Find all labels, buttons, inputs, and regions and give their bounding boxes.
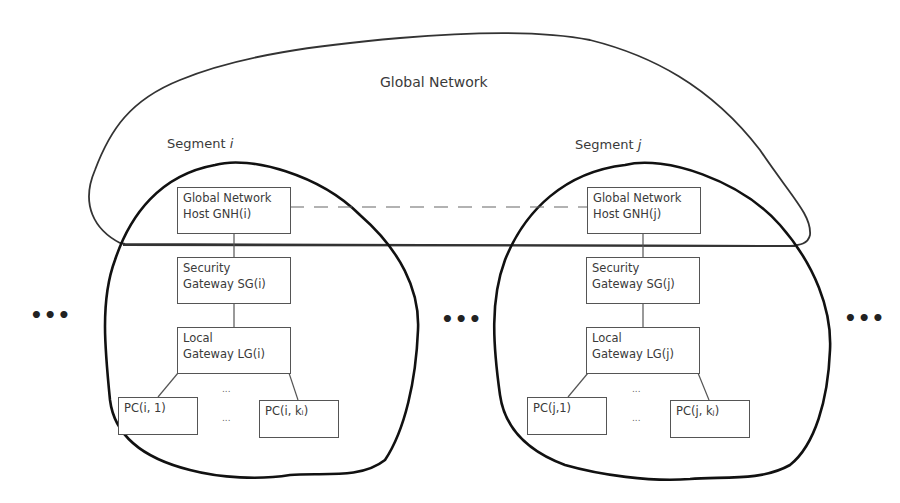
pc-i-ellipsis: ...: [222, 414, 231, 422]
gnh-j-line2: Host GNH(j): [593, 206, 700, 222]
sg-j-line1: Security: [592, 260, 699, 276]
pc-j-ellipsis: ...: [632, 414, 641, 422]
more-segments-right-ellipsis: •••: [844, 313, 885, 323]
pc-i-ellipsis-top: ...: [222, 385, 231, 393]
global-network-label: Global Network: [380, 74, 488, 90]
lg-i-line2: Gateway LG(i): [183, 346, 290, 362]
pc-j-k-node: PC(j, kⱼ): [670, 400, 750, 438]
pc-j-ellipsis-top: ...: [632, 385, 641, 393]
gnh-i-node: Global Network Host GNH(i): [177, 187, 291, 234]
more-segments-left-ellipsis: •••: [30, 310, 71, 320]
connector-lg-pc1-i: [158, 373, 178, 397]
pc-j-1-label: PC(j,1): [533, 400, 606, 416]
gnh-i-line2: Host GNH(i): [183, 206, 290, 222]
segment-i-label: Segment i: [167, 136, 233, 151]
pc-i-k-label: PC(i, kᵢ): [265, 403, 338, 419]
gnh-j-line1: Global Network: [593, 190, 700, 206]
sg-i-node: Security Gateway SG(i): [177, 257, 291, 304]
sg-j-line2: Gateway SG(j): [592, 276, 699, 292]
pc-i-1-node: PC(i, 1): [118, 397, 198, 435]
pc-i-1-label: PC(i, 1): [124, 400, 197, 416]
segment-j-label-var: j: [638, 137, 642, 152]
segment-j-label-text: Segment: [575, 137, 638, 152]
lg-i-node: Local Gateway LG(i): [177, 327, 291, 374]
connector-lg-pck-i: [289, 373, 298, 400]
lg-j-line1: Local: [592, 330, 699, 346]
connector-lg-pc1-j: [568, 373, 588, 397]
segment-j-label: Segment j: [575, 137, 641, 152]
segment-i-label-text: Segment: [167, 136, 230, 151]
lg-j-node: Local Gateway LG(j): [586, 327, 700, 374]
lg-i-line1: Local: [183, 330, 290, 346]
segment-i-label-var: i: [230, 136, 234, 151]
gnh-i-line1: Global Network: [183, 190, 290, 206]
pc-j-k-label: PC(j, kⱼ): [676, 403, 749, 419]
pc-i-k-node: PC(i, kᵢ): [259, 400, 339, 438]
lg-j-line2: Gateway LG(j): [592, 346, 699, 362]
sg-i-line2: Gateway SG(i): [183, 276, 290, 292]
pc-j-1-node: PC(j,1): [527, 397, 607, 435]
gnh-j-node: Global Network Host GNH(j): [587, 187, 701, 234]
global-network-boundary-line: [123, 245, 795, 246]
more-segments-middle-ellipsis: •••: [441, 314, 482, 324]
sg-i-line1: Security: [183, 260, 290, 276]
connector-lg-pck-j: [698, 373, 709, 400]
sg-j-node: Security Gateway SG(j): [586, 257, 700, 304]
